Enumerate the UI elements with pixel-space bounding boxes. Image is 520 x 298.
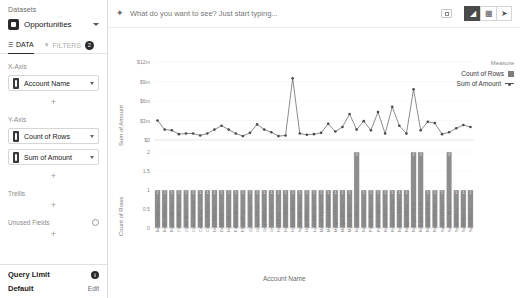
tab-data-label: DATA [16,41,34,48]
svg-text:1: 1 [221,191,223,195]
svg-text:Coleman RRS Inc: Coleman RRS Inc [191,200,196,232]
svg-text:0: 0 [147,225,150,231]
svg-text:MacDonald RRD Inc: MacDonald RRD Inc [326,196,331,232]
add-trellis-field-button[interactable]: + [0,199,107,219]
sidebar: Datasets Opportunities ☰ DATA ▼ FILTERS … [0,0,108,298]
legend-label-1: Count of Rows [461,70,504,77]
svg-text:Graves HT Inc: Graves HT Inc [248,206,253,232]
query-limit-label: Query Limit [8,270,50,279]
pivot-view-button[interactable]: ➤ [496,6,512,21]
svg-text:1: 1 [178,191,180,195]
svg-text:1: 1 [462,191,464,195]
svg-text:1: 1 [370,191,372,195]
drag-handle-icon[interactable] [13,152,19,163]
svg-text:Doyle RRD Inc: Doyle RRD Inc [219,206,224,232]
chevron-down-icon[interactable] [90,82,94,85]
svg-text:1: 1 [292,191,294,195]
edit-link[interactable]: Edit [88,285,99,292]
svg-text:$0: $0 [144,137,150,143]
svg-text:1: 1 [249,191,251,195]
svg-text:Grayson PS Inc: Grayson PS Inc [255,204,260,232]
svg-text:1: 1 [320,191,322,195]
svg-text:Lloyd RRD Inc: Lloyd RRD Inc [304,206,309,232]
svg-text:1: 1 [171,191,173,195]
svg-text:Hall BB Inc: Hall BB Inc [276,212,281,232]
line-marker-icon [505,83,514,84]
analytics-studio-app: Datasets Opportunities ☰ DATA ▼ FILTERS … [0,0,520,298]
svg-text:Russell RRD Inc: Russell RRD Inc [432,203,437,232]
table-view-button[interactable]: ▦ [480,6,496,21]
svg-text:2: 2 [420,153,422,157]
svg-text:0.5: 0.5 [143,206,150,212]
y-axis-section: Y-Axis Count of Rows Sum of Amount [0,116,107,170]
svg-text:1: 1 [256,191,258,195]
svg-text:Pittman HSB Inc: Pittman HSB Inc [376,203,381,232]
svg-text:1: 1 [455,191,457,195]
svg-text:Norris HT Inc: Norris HT Inc [361,209,366,232]
tab-filters-label: FILTERS [53,42,81,49]
y-axis-field-label-2: Sum of Amount [24,154,85,161]
filters-badge: 2 [85,41,94,50]
svg-text:Morgan PBS Inc: Morgan PBS Inc [340,203,345,232]
svg-text:2: 2 [356,153,358,157]
svg-text:Rodgers BB Inc: Rodgers BB Inc [404,204,409,232]
svg-text:1: 1 [235,191,237,195]
sidebar-footer: Query Limit i Default Edit [0,264,107,298]
dataset-selector[interactable]: Opportunities [0,17,107,30]
gear-icon[interactable] [92,219,99,226]
add-y-axis-field-button[interactable]: + [0,170,107,190]
y-axis-field-label-1: Count of Rows [24,133,85,140]
unused-fields-header: Unused Fields [0,219,107,226]
svg-text:Richardson TT Inc: Richardson TT Inc [390,199,395,232]
svg-text:1: 1 [147,187,150,193]
svg-text:1: 1 [334,191,336,195]
svg-text:Henderson BB Inc: Henderson BB Inc [290,200,295,232]
expand-icon[interactable] [441,9,452,18]
y-axis-field-count-of-rows[interactable]: Count of Rows [8,128,99,144]
chart-view-button[interactable]: ◢ [464,6,480,21]
add-x-axis-field-button[interactable]: + [0,96,107,116]
svg-text:1: 1 [327,191,329,195]
x-axis-field-account-name[interactable]: Account Name [8,75,99,91]
svg-text:1: 1 [405,191,407,195]
svg-text:Dean RRD Inc: Dean RRD Inc [212,206,217,232]
legend-item-count-of-rows[interactable]: Count of Rows [438,70,514,77]
legend-item-sum-of-amount[interactable]: Sum of Amount [438,80,514,87]
add-unused-field-button[interactable]: + [0,228,107,248]
svg-text:Clarke BB Inc: Clarke BB Inc [184,208,189,232]
chart-legend: Measure Count of Rows Sum of Amount [438,60,514,90]
tab-filters[interactable]: ▼ FILTERS 2 [44,37,94,54]
search-input[interactable] [130,9,435,18]
svg-text:1: 1 [157,191,159,195]
drag-handle-icon[interactable] [13,78,19,89]
svg-text:Bryant HSB Inc: Bryant HSB Inc [169,205,174,232]
svg-text:Palmer BB Inc: Palmer BB Inc [368,206,373,232]
dataset-icon [8,19,19,30]
svg-text:2: 2 [147,149,150,155]
query-limit-row[interactable]: Query Limit i [0,265,107,284]
svg-text:Scott RRD Inc: Scott RRD Inc [461,207,466,232]
svg-text:1: 1 [434,191,436,195]
svg-text:$12m: $12m [137,59,150,65]
view-toggle-group: ◢ ▦ ➤ [464,6,512,21]
chevron-down-icon[interactable] [90,135,94,138]
bar-marker-icon [508,71,514,77]
svg-text:1: 1 [363,191,365,195]
svg-text:1: 1 [441,191,443,195]
svg-text:2: 2 [448,153,450,157]
chevron-down-icon[interactable] [90,156,94,159]
tab-data[interactable]: ☰ DATA [8,37,34,54]
drag-handle-icon[interactable] [13,131,19,142]
svg-text:1: 1 [427,191,429,195]
svg-text:Marshal TQ Inc: Marshal TQ Inc [319,205,324,232]
funnel-icon: ▼ [44,42,50,48]
chevron-down-icon[interactable] [93,23,99,26]
chart-canvas: Measure Count of Rows Sum of Amount Sum … [108,28,520,298]
svg-text:Rodriquez HT Inc: Rodriquez HT Inc [425,201,430,232]
query-limit-value-row[interactable]: Default Edit [0,284,107,298]
info-icon[interactable]: i [91,271,99,279]
y-axis-field-sum-of-amount[interactable]: Sum of Amount [8,149,99,165]
y-axis-label-count-of-rows: Count of Rows [118,197,124,236]
x-axis-field-label: Account Name [24,80,85,87]
svg-text:1: 1 [398,191,400,195]
